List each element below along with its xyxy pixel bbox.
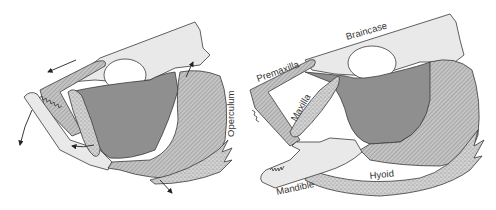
diagram-canvas: Operculum Braincase Premaxilla Maxilla M… <box>0 0 496 210</box>
right-panel: Braincase Premaxilla Maxilla Mandible Hy… <box>250 14 484 197</box>
mandible-down-arrow <box>20 110 32 145</box>
label-hyoid: Hyoid <box>369 168 394 181</box>
label-operculum: Operculum <box>225 90 236 137</box>
left-panel: Operculum <box>20 22 236 193</box>
premaxilla-teeth-right <box>252 110 259 122</box>
fish-jaw-diagram: Operculum Braincase Premaxilla Maxilla M… <box>0 0 496 210</box>
premaxilla-forward-arrow <box>48 60 76 72</box>
